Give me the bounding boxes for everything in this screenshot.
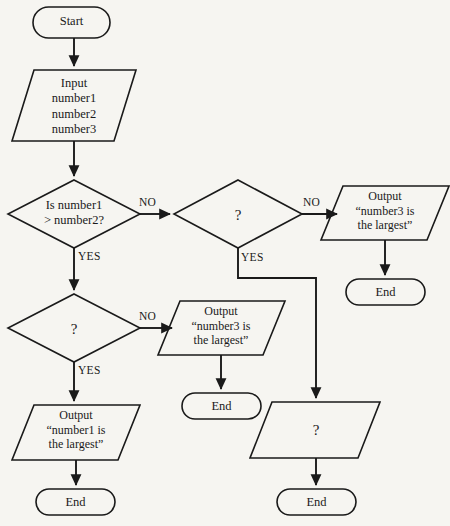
node-output-question-shape[interactable] — [250, 402, 380, 458]
node-end-bottom-left-shape[interactable] — [36, 489, 115, 515]
flowchart-canvas: Start Input number1 number2 number3 Is n… — [0, 0, 450, 526]
node-input-shape[interactable] — [12, 70, 136, 141]
flowchart-svg — [0, 0, 450, 526]
node-decision1-shape[interactable] — [8, 180, 140, 248]
node-end-top-right-shape[interactable] — [346, 279, 425, 305]
node-start-shape[interactable] — [33, 7, 110, 38]
node-output-bottom-left-shape[interactable] — [12, 405, 140, 460]
node-output-middle-shape[interactable] — [158, 301, 285, 355]
node-end-bottom-right-shape[interactable] — [277, 489, 356, 515]
node-decision2-shape[interactable] — [174, 180, 302, 248]
node-output-top-right-shape[interactable] — [321, 186, 449, 240]
node-decision3-shape[interactable] — [8, 294, 140, 362]
node-end-middle-shape[interactable] — [182, 393, 261, 419]
